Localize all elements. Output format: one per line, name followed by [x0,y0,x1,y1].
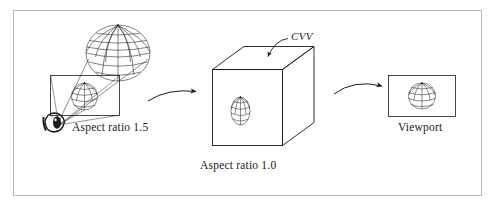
label-aspect-ratio-cvv: Aspect ratio 1.0 [200,159,276,171]
label-cvv: CVV [291,30,313,42]
label-viewport: Viewport [398,121,442,133]
label-aspect-ratio-window: Aspect ratio 1.5 [72,121,148,133]
diagram-page: Aspect ratio 1.5 Aspect ratio 1.0 Viewpo… [0,0,497,214]
